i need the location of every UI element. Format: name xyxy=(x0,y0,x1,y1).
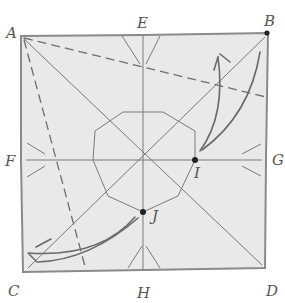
label-e: E xyxy=(136,14,148,32)
label-h: H xyxy=(136,284,151,302)
point-i-dot xyxy=(192,157,198,163)
label-i: I xyxy=(193,164,201,182)
origami-diagram: A B C D E F G H I J xyxy=(0,0,285,303)
label-d: D xyxy=(265,282,278,300)
label-c: C xyxy=(8,282,20,300)
label-f: F xyxy=(4,152,16,170)
label-g: G xyxy=(272,151,284,169)
label-a: A xyxy=(4,24,17,42)
point-b-dot xyxy=(264,30,269,35)
label-b: B xyxy=(263,12,275,30)
point-j-dot xyxy=(140,209,146,215)
